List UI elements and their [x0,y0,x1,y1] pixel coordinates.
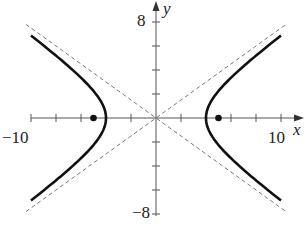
y-axis-label: y [163,0,171,17]
y-axis-arrow-icon [153,1,160,11]
x-max-label: 10 [268,129,285,146]
y-min-label: −8 [132,204,150,221]
hyperbola-plot [0,0,307,226]
focus-left [90,115,97,122]
x-axis-label: x [293,121,301,138]
x-min-label: −10 [2,129,29,146]
y-max-label: 8 [137,12,146,29]
focus-right [215,115,222,122]
